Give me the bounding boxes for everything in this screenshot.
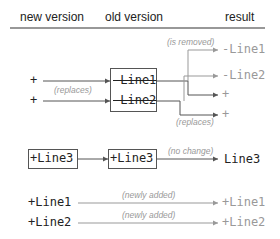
new-added-line-1: +Line1 [28, 195, 71, 209]
result-plus-2: + [222, 107, 229, 121]
result-plus-1: + [222, 87, 229, 101]
result-added-line-2: +Line2 [222, 215, 265, 229]
new-plus-2: + [30, 93, 37, 107]
newly-added-note-2: (newly added) [122, 210, 175, 220]
result-line3: Line3 [224, 152, 260, 166]
is-removed-note: (is removed) [167, 37, 214, 47]
no-change-note: (no change) [168, 146, 213, 156]
column-header-new-version: new version [20, 10, 84, 24]
newly-added-note-1: (newly added) [122, 190, 175, 200]
column-header-result: result [225, 10, 254, 24]
new-line3: +Line3 [30, 151, 73, 165]
replaces-note-right: (replaces) [176, 117, 214, 127]
replaces-note-left: (replaces) [54, 85, 92, 95]
new-added-line-2: +Line2 [28, 215, 71, 229]
new-plus-1: + [30, 73, 37, 87]
old-line3: +Line3 [110, 151, 153, 165]
column-header-old-version: old version [105, 10, 163, 24]
old-line-2: -Line2 [113, 93, 156, 107]
result-removed-line-2: -Line2 [222, 68, 265, 82]
old-line-1: -Line1 [113, 73, 156, 87]
result-added-line-1: +Line1 [222, 195, 265, 209]
result-removed-line-1: -Line1 [222, 42, 265, 56]
